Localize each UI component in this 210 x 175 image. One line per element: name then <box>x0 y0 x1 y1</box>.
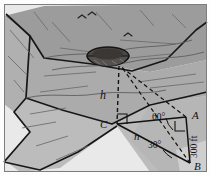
figure-container: h n C A B 60° 30° 300 ft <box>0 0 210 175</box>
label-segment-300ft: 300 ft <box>189 135 199 158</box>
label-baseline-n: n <box>134 130 140 142</box>
label-angle-60: 60° <box>152 112 166 122</box>
label-height-h: h <box>100 88 106 102</box>
mountain-elevation-diagram: h n C A B 60° 30° 300 ft <box>0 0 210 175</box>
label-angle-30: 30° <box>148 140 162 150</box>
label-point-c: C <box>100 118 108 130</box>
label-point-a: A <box>191 109 199 121</box>
crater-inner-shadow <box>93 49 123 60</box>
crater-peak <box>87 47 129 67</box>
label-point-b: B <box>194 160 201 172</box>
